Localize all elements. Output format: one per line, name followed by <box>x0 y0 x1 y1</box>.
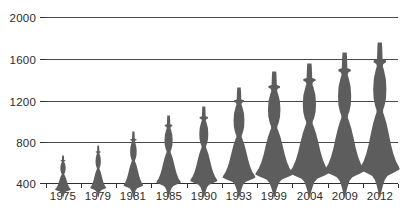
y-tickmarks-group <box>40 18 46 184</box>
figure-mark-2004 <box>289 63 329 197</box>
y-tick-label-2000: 2000 <box>10 12 36 24</box>
figure-mark-1999 <box>255 71 293 197</box>
y-tick-label-1600: 1600 <box>10 54 36 66</box>
figure-marks-group <box>55 42 400 197</box>
figure-mark-1985 <box>156 115 181 197</box>
y-tick-label-400: 400 <box>16 178 36 190</box>
figure-mark-2009 <box>325 52 365 197</box>
y-tick-label-1200: 1200 <box>10 96 36 108</box>
y-tick-label-800: 800 <box>16 137 36 149</box>
figure-mark-1981 <box>124 132 144 198</box>
chart-plot-area: 2000 1600 1200 800 400 1975 1979 1981 19… <box>0 0 410 213</box>
x-axis-labels: 1975 1979 1981 1985 1990 1993 1999 2004 … <box>50 190 393 202</box>
chart-container: 2000 1600 1200 800 400 1975 1979 1981 19… <box>0 0 410 213</box>
y-axis-labels: 2000 1600 1200 800 400 <box>10 12 36 190</box>
figure-mark-2012 <box>360 42 400 197</box>
